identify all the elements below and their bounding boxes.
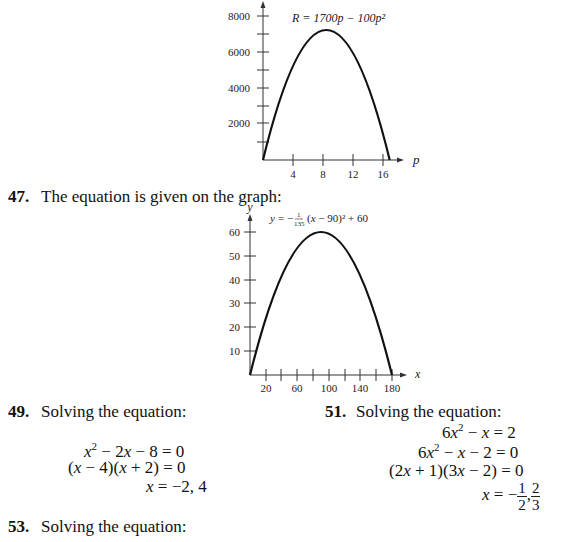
- y-axis-arrow-icon: [261, 1, 266, 8]
- y-tick-40: 40: [229, 274, 241, 286]
- x-tick-20: 20: [261, 382, 273, 394]
- parabola-curve: [250, 232, 392, 375]
- y-tick-6000: 6000: [228, 46, 251, 58]
- y-tick-2000: 2000: [228, 117, 251, 129]
- y-tick-8000: 8000: [228, 10, 251, 22]
- equation-line: x = −2, 4: [146, 477, 207, 497]
- x-tick-60: 60: [292, 382, 304, 394]
- problem-text: Solving the equation:: [41, 402, 186, 422]
- y-axis-arrow-icon: [248, 214, 253, 221]
- svg-text:(x − 90)² + 60: (x − 90)² + 60: [307, 212, 368, 225]
- y-axis-label: y: [246, 200, 253, 214]
- x-tick-12: 12: [348, 168, 359, 180]
- graph1-equation: R = 1700p − 100p²: [291, 11, 386, 25]
- parabola-graph: y 60 50 40 30 20 10 20 60 100 140 180 x …: [0, 200, 561, 400]
- y-tick-10: 10: [229, 345, 241, 357]
- x-axis-arrow-icon: [397, 158, 404, 163]
- svg-text:= −: = −: [278, 212, 293, 224]
- problem-text: Solving the equation:: [356, 402, 501, 422]
- equation-line: 6x2 − x = 2: [442, 421, 516, 443]
- equation-line: (2x + 1)(3x − 2) = 0: [389, 461, 524, 481]
- revenue-graph: 8000 6000 4000 2000 4 8 12 16 p R = 1700…: [0, 0, 561, 200]
- x-tick-4: 4: [290, 168, 296, 180]
- revenue-curve: [263, 30, 390, 160]
- svg-text:1: 1: [297, 211, 301, 219]
- x-axis-label: x: [414, 367, 421, 381]
- x-tick-8: 8: [320, 168, 326, 180]
- x-tick-180: 180: [384, 382, 401, 394]
- equation-line: 6x2 − x − 2 = 0: [418, 441, 518, 463]
- equation-line: x = −12,23: [482, 480, 540, 513]
- equation-line: (x − 4)(x + 2) = 0: [68, 458, 186, 478]
- y-tick-30: 30: [229, 297, 241, 309]
- problem-text: Solving the equation:: [41, 517, 186, 537]
- problem-number: 49.: [8, 402, 29, 422]
- x-axis-arrow-icon: [400, 373, 407, 378]
- graph2-equation: y = − 1 135 (x − 90)² + 60: [269, 211, 368, 228]
- x-tick-16: 16: [378, 168, 390, 180]
- svg-text:135: 135: [294, 220, 305, 228]
- x-tick-100: 100: [321, 382, 338, 394]
- problem-number: 51.: [325, 402, 346, 422]
- x-axis-label: p: [412, 152, 420, 167]
- y-tick-4000: 4000: [228, 82, 251, 94]
- x-tick-140: 140: [352, 382, 369, 394]
- y-tick-60: 60: [229, 226, 241, 238]
- y-tick-20: 20: [229, 321, 241, 333]
- y-tick-50: 50: [229, 250, 241, 262]
- problem-number: 53.: [8, 517, 29, 537]
- svg-text:y: y: [269, 212, 275, 224]
